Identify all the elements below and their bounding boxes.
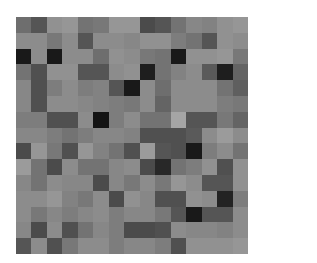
grid-cell [186,159,201,175]
grid-cell [93,33,108,49]
grid-cell [155,159,170,175]
grid-cell [62,64,77,80]
grid-cell [155,96,170,112]
grid-cell [47,175,62,191]
grid-cell [233,96,248,112]
grid-cell [186,49,201,65]
grid-cell [93,80,108,96]
grid-cell [217,143,232,159]
grid-cell [93,128,108,144]
grid-cell [62,143,77,159]
grid-cell [186,33,201,49]
grid-cell [217,33,232,49]
grid-cell [140,33,155,49]
grid-cell [217,49,232,65]
grid-cell [124,17,139,33]
grid-cell [171,191,186,207]
grid-cell [31,238,46,254]
grid-cell [155,64,170,80]
grid-cell [233,33,248,49]
grid-cell [186,128,201,144]
grid-cell [171,49,186,65]
grid-cell [16,159,31,175]
grid-cell [16,207,31,223]
grid-cell [109,112,124,128]
grid-cell [155,143,170,159]
grid-cell [31,64,46,80]
grid-cell [109,64,124,80]
grid-cell [109,128,124,144]
grid-cell [233,222,248,238]
grid-cell [233,128,248,144]
grid-cell [109,143,124,159]
grid-cell [124,80,139,96]
grid-cell [78,96,93,112]
grid-cell [140,80,155,96]
grid-cell [124,96,139,112]
grid-cell [202,159,217,175]
grid-cell [171,143,186,159]
grid-cell [47,96,62,112]
grid-cell [47,64,62,80]
grid-cell [62,49,77,65]
grid-cell [47,112,62,128]
grid-cell [217,64,232,80]
grid-cell [93,96,108,112]
grid-cell [140,238,155,254]
grid-cell [78,64,93,80]
grid-cell [16,64,31,80]
grid-cell [93,112,108,128]
grid-cell [186,17,201,33]
grid-cell [233,159,248,175]
grid-cell [186,207,201,223]
grid-cell [202,80,217,96]
grid-cell [171,112,186,128]
grid-cell [233,207,248,223]
grid-cell [171,33,186,49]
grid-cell [202,207,217,223]
grid-cell [186,64,201,80]
grid-cell [16,191,31,207]
grid-cell [217,17,232,33]
grid-cell [124,143,139,159]
grid-cell [140,191,155,207]
grid-cell [171,80,186,96]
grid-cell [78,159,93,175]
grid-cell [186,222,201,238]
grid-cell [202,128,217,144]
grid-cell [78,238,93,254]
grid-cell [233,191,248,207]
grid-cell [233,49,248,65]
grid-cell [155,80,170,96]
grid-cell [93,238,108,254]
grid-cell [124,64,139,80]
grid-cell [78,80,93,96]
grid-cell [186,112,201,128]
grid-cell [202,96,217,112]
grid-cell [217,128,232,144]
grid-cell [93,222,108,238]
grid-cell [78,49,93,65]
grid-cell [124,33,139,49]
grid-cell [16,128,31,144]
grid-cell [16,175,31,191]
grid-cell [217,175,232,191]
grid-cell [78,207,93,223]
grid-cell [62,17,77,33]
grid-cell [233,238,248,254]
grid-cell [47,238,62,254]
grid-cell [62,112,77,128]
grid-cell [109,222,124,238]
grid-cell [78,191,93,207]
grid-cell [109,33,124,49]
grid-cell [62,80,77,96]
grid-cell [140,49,155,65]
grid-cell [140,64,155,80]
grid-cell [124,238,139,254]
grid-cell [93,49,108,65]
grid-cell [155,49,170,65]
grid-cell [124,112,139,128]
grid-cell [47,17,62,33]
grid-cell [140,96,155,112]
grid-cell [109,17,124,33]
